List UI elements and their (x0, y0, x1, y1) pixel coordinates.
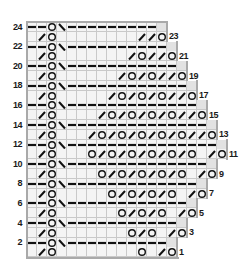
stitch-cell (197, 159, 207, 169)
purl-dash-icon (187, 100, 197, 110)
chart-outline-edge (206, 188, 208, 199)
chart-outline-edge (196, 208, 198, 219)
chart-top-border (26, 21, 168, 23)
knitting-chart: 242322212019181716151413121110987654321 (0, 0, 244, 271)
stitch-cell (187, 169, 197, 179)
chart-outline-edge (196, 90, 198, 101)
stitch-cell (197, 120, 207, 130)
stitch-cell (187, 100, 197, 110)
row-number-label: 10 (0, 159, 22, 169)
purl-dash-icon (187, 179, 197, 189)
row-number-label: 24 (0, 22, 22, 32)
purl-dash-icon (187, 120, 197, 130)
stitch-cell (187, 159, 197, 169)
row-number-label: 18 (0, 80, 22, 90)
row-number-label: 21 (179, 51, 188, 61)
chart-outline-edge (186, 227, 188, 238)
chart-outline-edge (206, 110, 208, 121)
purl-dash-icon (197, 159, 207, 169)
chart-outline-edge (216, 129, 218, 140)
stitch-cell (207, 140, 217, 150)
yarn-over-circle-icon (187, 149, 197, 159)
row-number-label: 6 (0, 198, 22, 208)
chart-outline-edge (216, 169, 218, 180)
row-number-label: 7 (209, 188, 214, 198)
stitch-cell (197, 130, 207, 140)
purl-dash-icon (187, 159, 197, 169)
k2tog-slash-icon (197, 130, 207, 140)
purl-dash-icon (197, 120, 207, 130)
purl-dash-icon (197, 140, 207, 150)
row-number-label: 4 (0, 218, 22, 228)
row-number-label: 13 (219, 129, 228, 139)
row-number-label: 11 (229, 149, 238, 159)
row-number-label: 19 (189, 71, 198, 81)
row-number-label: 15 (209, 110, 218, 120)
chart-outline-edge (186, 71, 188, 82)
k2tog-slash-icon (187, 110, 197, 120)
row-number-label: 22 (0, 41, 22, 51)
row-number-label: 12 (0, 139, 22, 149)
stitch-cell (187, 120, 197, 130)
row-number-label: 16 (0, 100, 22, 110)
row-number-label: 17 (199, 90, 208, 100)
purl-dash-icon (187, 140, 197, 150)
row-number-label: 8 (0, 178, 22, 188)
chart-frame (26, 21, 179, 259)
stitch-cell (187, 130, 197, 140)
row-number-label: 5 (199, 208, 204, 218)
chart-outline-edge (226, 149, 228, 160)
stitch-cell (187, 140, 197, 150)
row-number-label: 1 (179, 247, 184, 257)
stitch-cell (187, 149, 197, 159)
stitch-cell (197, 149, 207, 159)
row-number-label: 14 (0, 120, 22, 130)
row-number-label: 2 (0, 237, 22, 247)
stitch-cell (187, 179, 197, 189)
k2tog-slash-icon (187, 130, 197, 140)
stitch-cell (187, 110, 197, 120)
purl-dash-icon (207, 140, 217, 150)
stitch-cell (197, 140, 207, 150)
row-number-label: 9 (219, 169, 224, 179)
row-number-label: 3 (189, 227, 194, 237)
row-number-label: 20 (0, 61, 22, 71)
